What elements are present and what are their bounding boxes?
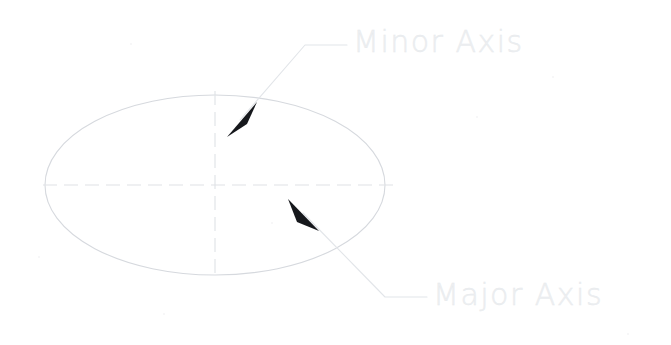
major-axis-arrowhead-icon <box>288 199 319 231</box>
minor-axis-arrowhead-icon <box>227 102 257 137</box>
paper-speck <box>271 222 273 224</box>
paper-speck <box>38 256 40 258</box>
minor-axis-label: Minor Axis <box>353 27 524 57</box>
paper-speck <box>476 116 478 118</box>
paper-speck <box>627 333 629 335</box>
paper-speck <box>130 43 132 45</box>
diagram-canvas: Minor Axis Major Axis <box>0 0 671 345</box>
minor-axis-leader-line <box>240 45 347 120</box>
paper-speck <box>552 76 554 78</box>
major-axis-label: Major Axis <box>433 280 603 310</box>
paper-speck <box>163 313 165 315</box>
